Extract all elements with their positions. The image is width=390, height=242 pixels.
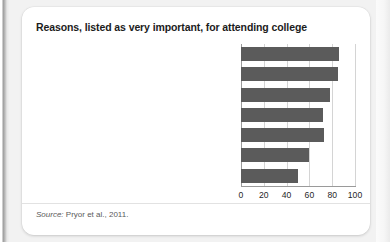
bar: [241, 67, 338, 81]
page-right-edge: [376, 0, 390, 242]
bar-row: [241, 105, 355, 125]
bar-row: [241, 125, 355, 145]
source-divider: [22, 203, 370, 204]
bar-row: [241, 44, 355, 64]
x-tick-label: 100: [340, 190, 370, 200]
bar: [241, 169, 298, 183]
figure-card: Reasons, listed as very important, for a…: [22, 7, 370, 235]
bar-chart: Ability to get a better jobLearn more ab…: [22, 40, 370, 200]
figure-title: Reasons, listed as very important, for a…: [36, 21, 307, 33]
source-label: Source:: [36, 210, 64, 219]
bar-row: [241, 64, 355, 84]
source-note: Source: Pryor et al., 2011.: [36, 210, 128, 219]
bar: [241, 108, 323, 122]
page-gutter: [0, 0, 10, 242]
bar-row: [241, 166, 355, 186]
plot-area: [241, 44, 355, 186]
gridline-100: [355, 44, 356, 186]
bar-row: [241, 85, 355, 105]
bar: [241, 148, 309, 162]
bar: [241, 128, 324, 142]
bar: [241, 88, 330, 102]
x-axis-line: [241, 186, 356, 187]
bar-row: [241, 145, 355, 165]
bar: [241, 47, 339, 61]
source-citation: Pryor et al., 2011.: [64, 210, 129, 219]
